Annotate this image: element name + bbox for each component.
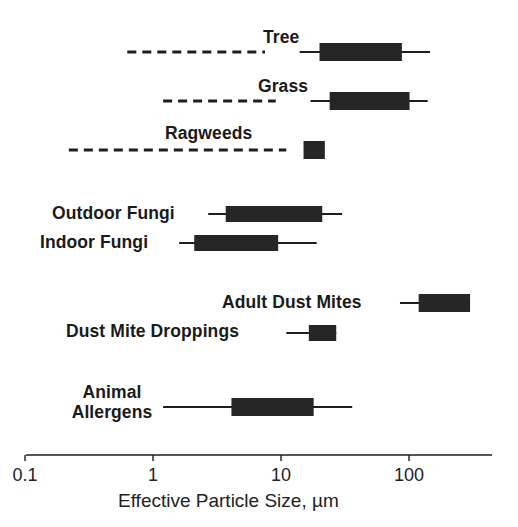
animal-allergens-predominant-range-bar xyxy=(231,398,313,416)
adult-dust-mites-predominant-range-bar xyxy=(419,294,470,312)
row-label-grass: Grass xyxy=(258,78,308,96)
row-label-line: Tree xyxy=(263,29,299,47)
ragweeds-predominant-range-bar xyxy=(304,141,325,159)
row-label-line: Animal xyxy=(64,384,160,402)
row-label-line: Adult Dust Mites xyxy=(222,294,362,312)
x-tick-label: 0.1 xyxy=(12,466,37,484)
row-label-dust-mite-droppings: Dust Mite Droppings xyxy=(66,323,239,341)
row-label-line: Allergens xyxy=(64,404,160,422)
row-label-indoor-fungi: Indoor Fungi xyxy=(40,234,148,252)
x-tick-label: 100 xyxy=(394,466,424,484)
indoor-fungi-predominant-range-bar xyxy=(194,235,278,251)
x-tick-label: 10 xyxy=(271,466,291,484)
row-label-line: Ragweeds xyxy=(165,125,252,143)
row-label-adult-dust-mites: Adult Dust Mites xyxy=(222,294,362,312)
row-label-ragweeds: Ragweeds xyxy=(165,125,252,143)
x-axis-title: Effective Particle Size, µm xyxy=(118,491,339,510)
x-tick-label: 1 xyxy=(148,466,158,484)
row-label-outdoor-fungi: Outdoor Fungi xyxy=(52,205,175,223)
row-label-animal-allergens: AnimalAllergens xyxy=(64,384,160,421)
grass-predominant-range-bar xyxy=(330,92,410,110)
dust-mite-droppings-predominant-range-bar xyxy=(309,325,336,341)
row-label-tree: Tree xyxy=(263,29,299,47)
outdoor-fungi-predominant-range-bar xyxy=(226,206,323,222)
tree-predominant-range-bar xyxy=(320,43,402,61)
particle-size-chart: TreeGrassRagweedsOutdoor FungiIndoor Fun… xyxy=(0,0,518,527)
row-label-line: Outdoor Fungi xyxy=(52,205,175,223)
row-label-line: Indoor Fungi xyxy=(40,234,148,252)
row-label-line: Dust Mite Droppings xyxy=(66,323,239,341)
row-label-line: Grass xyxy=(258,78,308,96)
